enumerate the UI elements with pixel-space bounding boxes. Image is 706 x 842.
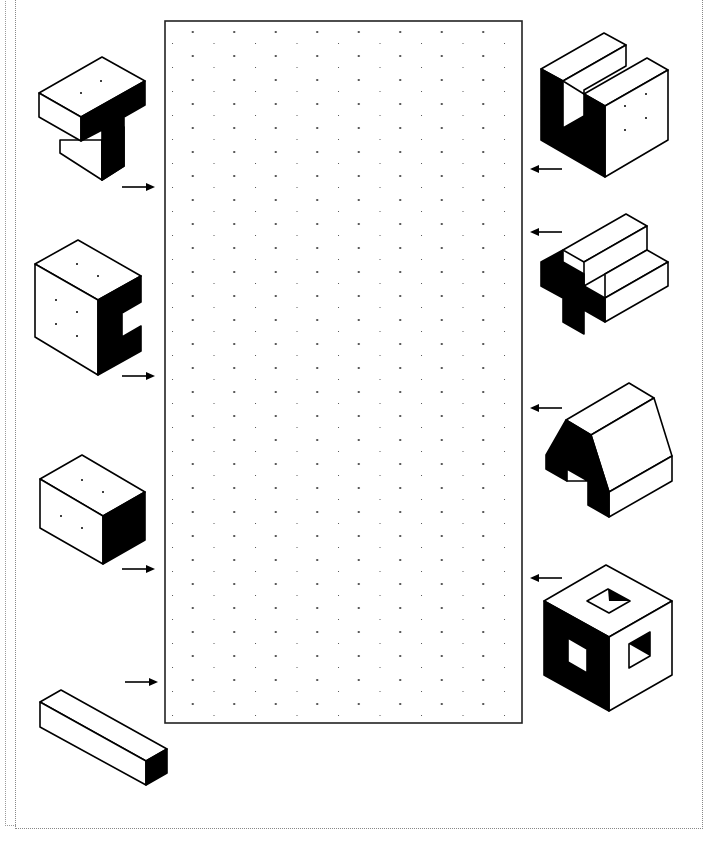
arrow-left-icon xyxy=(530,574,562,582)
arch-block-shape xyxy=(546,383,672,517)
arrow-left-icon xyxy=(530,165,562,173)
c-block-shape xyxy=(35,240,141,375)
arrow-right-icon xyxy=(122,183,155,191)
arrow-right-icon xyxy=(125,678,158,686)
t-block-shape xyxy=(39,57,145,180)
worksheet-drawing xyxy=(0,0,706,842)
arrow-left-icon xyxy=(530,228,562,236)
hollow-cube-shape xyxy=(544,565,672,711)
isometric-dot-grid[interactable] xyxy=(165,21,522,723)
arrow-right-icon xyxy=(122,565,155,573)
arrow-right-icon xyxy=(122,372,155,380)
long-bar-shape xyxy=(40,690,167,785)
u-block-shape xyxy=(541,33,668,177)
rect-prism-shape xyxy=(40,455,145,564)
arrow-left-icon xyxy=(530,404,562,412)
